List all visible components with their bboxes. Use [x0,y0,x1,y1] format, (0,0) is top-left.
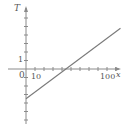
y-tick-label-1: 1 [18,56,23,64]
line-chart [0,0,123,129]
x-tick-label-100: 100 [100,73,115,81]
y-axis-label: T [14,4,20,13]
y-axis [24,6,28,124]
y-axis-arrow-icon [24,6,28,12]
x-axis-label: x [116,71,121,79]
x-tick-label-10: 10 [31,73,41,81]
data-line [26,28,121,99]
origin-label: 0 [19,71,25,80]
